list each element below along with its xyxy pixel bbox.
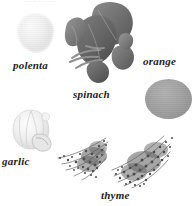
thyme-label: thyme: [101, 189, 130, 201]
ingredient-plate: ........ ... ....... polenta: [0, 0, 196, 206]
thyme-image: [52, 132, 192, 190]
orange-image: [145, 79, 192, 119]
top-caption: ........ ... .......: [24, 0, 57, 3]
garlic-image: [11, 107, 53, 153]
garlic-label: garlic: [2, 155, 29, 167]
spinach-label: spinach: [73, 88, 110, 100]
polenta-label: polenta: [13, 59, 48, 71]
spinach-image: [64, 0, 138, 86]
polenta-image: [17, 13, 54, 53]
orange-label: orange: [143, 55, 176, 67]
